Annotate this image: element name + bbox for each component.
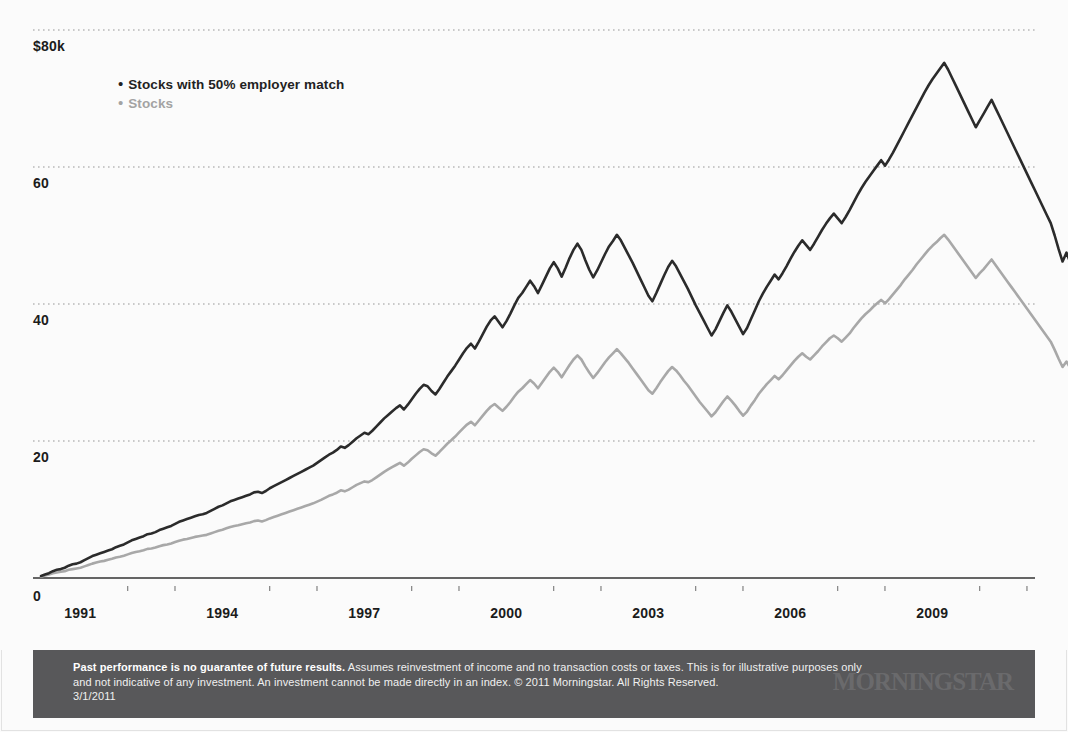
series-line-stocks-with-match (41, 63, 1068, 576)
x-axis-tick-label: 2006 (774, 605, 806, 621)
legend-item-stocks-with-match: • Stocks with 50% employer match (118, 76, 344, 92)
x-axis-minor-ticks (128, 586, 1027, 591)
y-axis-tick-label: $80k (33, 38, 65, 54)
y-axis-tick-label: 60 (33, 175, 49, 191)
chart-plot-area: 0204060$80k 1991199419972000200320062009… (0, 0, 1068, 650)
x-axis-tick-label: 1997 (348, 605, 380, 621)
morningstar-watermark: MORNINGSTAR (833, 668, 1013, 696)
x-axis-tick-label: 2009 (916, 605, 948, 621)
chart-legend: • Stocks with 50% employer match • Stock… (118, 76, 344, 114)
x-axis-tick-label: 1991 (64, 605, 96, 621)
y-axis-tick-label: 20 (33, 449, 49, 465)
legend-bullet-icon: • (118, 95, 123, 110)
y-axis-tick-label: 40 (33, 312, 49, 328)
disclaimer-lead: Past performance is no guarantee of futu… (73, 661, 345, 673)
legend-label: Stocks (128, 96, 173, 111)
y-axis-tick-label: 0 (33, 588, 41, 604)
chart-page: 0204060$80k 1991199419972000200320062009… (0, 0, 1068, 732)
legend-bullet-icon: • (118, 76, 123, 91)
x-axis-tick-label: 1994 (206, 605, 238, 621)
disclaimer-date: 3/1/2011 (73, 690, 116, 702)
disclaimer-text: Past performance is no guarantee of futu… (73, 660, 873, 704)
legend-label: Stocks with 50% employer match (128, 77, 344, 92)
series-line-stocks (41, 235, 1068, 577)
x-axis-tick-label: 2000 (490, 605, 522, 621)
disclaimer-footer: Past performance is no guarantee of futu… (33, 650, 1035, 718)
x-axis-tick-label: 2003 (632, 605, 664, 621)
legend-item-stocks: • Stocks (118, 95, 344, 111)
